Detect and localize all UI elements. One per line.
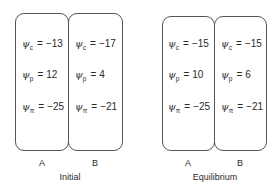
value: 6: [245, 69, 251, 80]
psi-p-row: ψp=10: [168, 69, 203, 82]
psi-p-row: ψp=6: [221, 69, 251, 82]
cell-b-equilibrium: [214, 16, 267, 151]
value: −17: [99, 38, 116, 49]
value: −15: [192, 38, 209, 49]
psi-p-row: ψp=4: [75, 69, 105, 82]
value: 10: [192, 69, 203, 80]
cell-label-b: B: [85, 158, 105, 169]
cell-label-b: B: [230, 158, 250, 169]
cell-label-a: A: [178, 158, 198, 169]
value: −25: [193, 101, 210, 112]
psi-symbol: ψ: [75, 38, 83, 49]
psi-c-row: ψc=−13: [22, 38, 63, 51]
psi-symbol: ψ: [221, 101, 229, 112]
value: −15: [245, 38, 262, 49]
value: 4: [99, 69, 105, 80]
panel-title: Initial: [30, 172, 110, 183]
value: −21: [246, 101, 263, 112]
value: −21: [100, 101, 117, 112]
psi-pi-row: ψπ=−21: [221, 101, 263, 114]
psi-pi-row: ψπ=−25: [168, 101, 210, 114]
psi-c-row: ψc=−15: [221, 38, 262, 51]
psi-symbol: ψ: [75, 101, 83, 112]
psi-symbol: ψ: [168, 69, 176, 80]
panel-title: Equilibrium: [175, 172, 255, 183]
psi-symbol: ψ: [22, 101, 30, 112]
cell-b-initial: [68, 13, 123, 151]
psi-pi-row: ψπ=−21: [75, 101, 117, 114]
psi-symbol: ψ: [22, 38, 30, 49]
value: −13: [46, 38, 63, 49]
value: −25: [47, 101, 64, 112]
psi-symbol: ψ: [221, 69, 229, 80]
psi-c-row: ψc=−17: [75, 38, 116, 51]
psi-symbol: ψ: [75, 69, 83, 80]
psi-pi-row: ψπ=−25: [22, 101, 64, 114]
psi-symbol: ψ: [22, 69, 30, 80]
cell-label-a: A: [32, 158, 52, 169]
psi-symbol: ψ: [168, 101, 176, 112]
cell-a-equilibrium: [162, 16, 215, 151]
psi-c-row: ψc=−15: [168, 38, 209, 51]
psi-p-row: ψp=12: [22, 69, 57, 82]
psi-symbol: ψ: [221, 38, 229, 49]
psi-symbol: ψ: [168, 38, 176, 49]
value: 12: [46, 69, 57, 80]
cell-a-initial: [15, 13, 69, 151]
